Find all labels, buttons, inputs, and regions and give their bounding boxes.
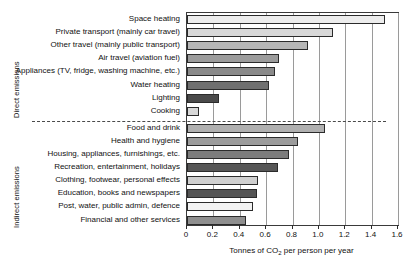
x-axis-tick-label: 0.2 bbox=[207, 230, 218, 239]
category-label: Space heating bbox=[129, 13, 180, 25]
x-axis-tick-label: 0.4 bbox=[233, 230, 244, 239]
category-axis: Space heatingPrivate transport (mainly c… bbox=[0, 12, 183, 224]
x-axis-tick-label: 1.6 bbox=[391, 230, 402, 239]
category-label: Recreation, entertainment, holidays bbox=[54, 161, 180, 173]
bar-row bbox=[187, 201, 398, 213]
category-label: Private transport (mainly car travel) bbox=[56, 26, 180, 38]
plot-area bbox=[186, 12, 399, 226]
bar-row bbox=[187, 66, 398, 78]
x-axis-tick bbox=[265, 225, 266, 229]
category-label: Education, books and newspapers bbox=[58, 187, 180, 199]
bar-row bbox=[187, 40, 398, 52]
x-axis-title-before: Tonnes of CO bbox=[229, 246, 278, 255]
category-label: Food and drink bbox=[127, 122, 180, 134]
group-separator-dashed-line bbox=[32, 121, 386, 122]
gridline bbox=[398, 13, 399, 225]
x-axis-tick-labels: 00.20.40.60.81.01.21.41.6 bbox=[186, 230, 397, 242]
bar bbox=[187, 28, 333, 37]
category-label: Water heating bbox=[130, 79, 180, 91]
x-axis-tick bbox=[318, 225, 319, 229]
bar-row bbox=[187, 188, 398, 200]
bar bbox=[187, 54, 279, 63]
bar bbox=[187, 189, 257, 198]
category-label: Housing, appliances, furnishings, etc. bbox=[47, 148, 180, 160]
category-label: Financial and other services bbox=[80, 214, 180, 226]
bar bbox=[187, 150, 289, 159]
bar-row bbox=[187, 27, 398, 39]
x-axis-title: Tonnes of CO2 per person per year bbox=[186, 246, 397, 255]
bar bbox=[187, 94, 219, 103]
x-axis-tick-label: 0.6 bbox=[260, 230, 271, 239]
category-label: Other travel (mainly public transport) bbox=[51, 39, 180, 51]
bar-row bbox=[187, 106, 398, 118]
bar-row bbox=[187, 53, 398, 65]
bar-row bbox=[187, 80, 398, 92]
x-axis-tick-label: 1.4 bbox=[365, 230, 376, 239]
x-axis-tick bbox=[212, 225, 213, 229]
x-axis-tick bbox=[371, 225, 372, 229]
bar bbox=[187, 15, 385, 24]
x-axis-tick bbox=[186, 225, 187, 229]
bar-row bbox=[187, 175, 398, 187]
bar-row bbox=[187, 149, 398, 161]
bar bbox=[187, 81, 269, 90]
bar bbox=[187, 163, 278, 172]
bar bbox=[187, 67, 275, 76]
bar bbox=[187, 107, 199, 116]
x-axis-title-after: per person per year bbox=[282, 246, 354, 255]
bar-row bbox=[187, 162, 398, 174]
category-label: Lighting bbox=[152, 92, 180, 104]
x-axis-tick-label: 1.2 bbox=[339, 230, 350, 239]
bar bbox=[187, 41, 308, 50]
category-label: Appliances (TV, fridge, washing machine,… bbox=[16, 65, 180, 77]
x-axis-tick-label: 1.0 bbox=[312, 230, 323, 239]
bar bbox=[187, 216, 246, 225]
x-axis-tick bbox=[292, 225, 293, 229]
category-label: Clothing, footwear, personal effects bbox=[55, 174, 180, 186]
bar-row bbox=[187, 93, 398, 105]
category-label: Cooking bbox=[151, 105, 180, 117]
bar bbox=[187, 176, 258, 185]
x-axis-tick-label: 0.8 bbox=[286, 230, 297, 239]
bar bbox=[187, 137, 298, 146]
bar-row bbox=[187, 14, 398, 26]
category-label: Post, water, public admin, defence bbox=[58, 200, 180, 212]
x-axis-tick bbox=[344, 225, 345, 229]
co2-emissions-bar-chart: Direct emissions Indirect emissions Spac… bbox=[0, 0, 414, 269]
bar bbox=[187, 124, 325, 133]
x-axis-tick-label: 0 bbox=[184, 230, 188, 239]
x-axis-tick bbox=[239, 225, 240, 229]
category-label: Health and hygiene bbox=[111, 135, 180, 147]
bar-row bbox=[187, 123, 398, 135]
x-axis-tick bbox=[397, 225, 398, 229]
bar bbox=[187, 202, 253, 211]
category-label: Air travel (aviation fuel) bbox=[98, 52, 180, 64]
bar-row bbox=[187, 136, 398, 148]
x-axis-title-subscript: 2 bbox=[278, 250, 281, 256]
